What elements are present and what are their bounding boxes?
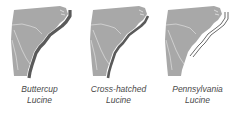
species-name: Cross-hatched	[79, 84, 158, 95]
range-map-cross-hatched	[79, 0, 158, 80]
range-map-panel-buttercup: Buttercup Lucine	[0, 0, 79, 115]
land-mass	[90, 6, 147, 76]
species-name: Pennsylvania	[158, 84, 237, 95]
species-genus: Lucine	[79, 95, 158, 106]
range-map-panel-pennsylvania: Pennsylvania Lucine	[158, 0, 237, 115]
species-genus: Lucine	[0, 95, 79, 106]
range-map-pennsylvania	[158, 0, 237, 80]
species-name: Buttercup	[0, 84, 79, 95]
species-caption: Cross-hatched Lucine	[79, 84, 158, 105]
range-map-panel-cross-hatched: Cross-hatched Lucine	[79, 0, 158, 115]
species-genus: Lucine	[158, 95, 237, 106]
species-caption: Pennsylvania Lucine	[158, 84, 237, 105]
land-mass	[11, 6, 68, 76]
species-caption: Buttercup Lucine	[0, 84, 79, 105]
land-mass	[165, 6, 222, 76]
range-map-buttercup	[0, 0, 79, 80]
